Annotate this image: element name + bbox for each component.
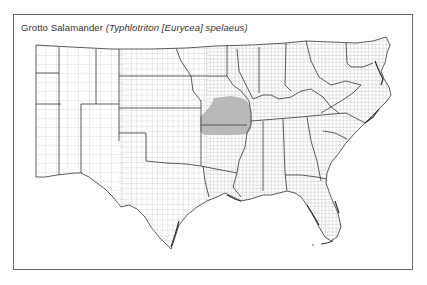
counties-layer [14,15,412,269]
florida-keys [321,241,333,244]
us-county-map [14,15,412,269]
map-frame: Grotto Salamander (Typhlotriton [Eurycea… [13,14,413,270]
